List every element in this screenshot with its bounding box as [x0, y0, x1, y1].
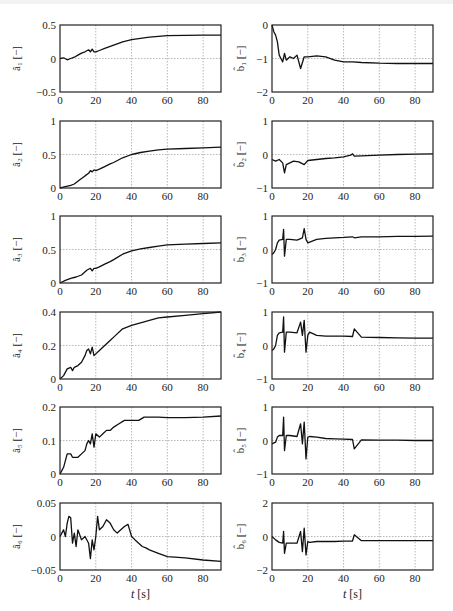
y-tick-label: 0.2: [42, 401, 56, 413]
x-tick-label: 40: [126, 94, 138, 106]
x-tick-label: 20: [90, 285, 102, 297]
y-axis-label: â₄ [−]: [10, 333, 22, 358]
y-tick-label: 0.5: [42, 149, 56, 161]
x-tick-label: 20: [90, 476, 102, 488]
y-axis-label: â₂ [−]: [10, 142, 22, 167]
x-tick-label: 40: [126, 381, 138, 393]
x-tick-label: 0: [57, 572, 63, 584]
x-tick-label: 80: [198, 94, 210, 106]
y-tick-label: 0.2: [42, 340, 56, 352]
x-axis-label: t [s]: [343, 587, 362, 601]
x-tick-label: 80: [198, 190, 210, 202]
y-tick-label: 1: [51, 115, 57, 127]
y-tick-label: −2: [256, 86, 268, 98]
x-tick-label: 40: [338, 381, 350, 393]
y-tick-label: 0.1: [42, 435, 56, 447]
y-axis-label: â₃ [−]: [10, 237, 22, 262]
y-tick-label: 0: [51, 182, 57, 194]
y-tick-label: 0: [263, 531, 269, 543]
data-line-b3: [272, 229, 433, 257]
y-tick-label: 0: [263, 19, 269, 31]
x-tick-label: 0: [57, 381, 63, 393]
x-tick-label: 20: [302, 381, 314, 393]
y-tick-label: 0: [51, 531, 57, 543]
x-tick-label: 80: [198, 381, 210, 393]
x-tick-label: 20: [90, 190, 102, 202]
subplot-b3: 020406080−101b̂₃ [−]: [233, 210, 433, 297]
data-line-b1: [272, 25, 433, 69]
data-line-b6: [272, 528, 433, 555]
x-tick-label: 60: [374, 572, 386, 584]
y-tick-label: 0: [51, 53, 57, 65]
x-tick-label: 60: [162, 285, 174, 297]
data-line-a1: [60, 35, 221, 60]
x-tick-label: 60: [162, 94, 174, 106]
y-tick-label: 1: [263, 210, 269, 222]
subplot-a3: 02040608000.51â₃ [−]: [10, 210, 221, 297]
y-tick-label: 0.5: [42, 19, 56, 31]
x-tick-label: 20: [90, 572, 102, 584]
x-tick-label: 80: [198, 572, 210, 584]
x-tick-label: 40: [126, 285, 138, 297]
y-tick-label: −0.05: [31, 564, 57, 576]
y-tick-label: 1: [51, 210, 57, 222]
x-tick-label: 60: [374, 476, 386, 488]
y-tick-label: −1: [256, 373, 268, 385]
x-tick-label: 80: [410, 572, 422, 584]
x-tick-label: 80: [410, 381, 422, 393]
x-tick-label: 80: [410, 285, 422, 297]
y-tick-label: 0: [263, 340, 269, 352]
data-line-b4: [272, 317, 433, 352]
subplot-a1: 020406080−0.500.5â₁ [−]: [10, 19, 221, 106]
data-line-b5: [272, 417, 433, 459]
y-tick-label: 1: [263, 115, 269, 127]
data-line-a2: [60, 147, 221, 188]
x-tick-label: 80: [198, 285, 210, 297]
figure: 020406080−0.500.5â₁ [−]020406080−2−10b̂₁…: [0, 0, 453, 611]
x-tick-label: 0: [269, 381, 275, 393]
x-tick-label: 60: [374, 190, 386, 202]
data-line-b2: [272, 154, 433, 173]
x-tick-label: 0: [57, 285, 63, 297]
y-tick-label: −2: [256, 564, 268, 576]
subplot-b4: 020406080−101b̂₄ [−]: [233, 306, 433, 393]
y-tick-label: 0.05: [37, 497, 57, 509]
x-tick-label: 0: [269, 94, 275, 106]
y-axis-label: â₆ [−]: [10, 524, 22, 549]
x-tick-label: 60: [162, 476, 174, 488]
x-tick-label: 0: [269, 190, 275, 202]
x-tick-label: 60: [162, 381, 174, 393]
x-tick-label: 60: [374, 94, 386, 106]
x-tick-label: 20: [90, 381, 102, 393]
x-tick-label: 0: [57, 94, 63, 106]
y-tick-label: −1: [256, 182, 268, 194]
subplot-a6: 020406080−0.0500.05â₆ [−]t [s]: [10, 497, 221, 601]
y-axis-label: b̂₃ [−]: [233, 237, 246, 263]
subplot-a5: 02040608000.10.2â₅ [−]: [10, 401, 221, 488]
y-tick-label: 0: [263, 435, 269, 447]
x-tick-label: 80: [410, 190, 422, 202]
y-tick-label: 0: [51, 468, 57, 480]
x-tick-label: 20: [302, 476, 314, 488]
y-tick-label: 0.4: [42, 306, 56, 318]
subplot-b2: 020406080−101b̂₂ [−]: [233, 115, 433, 202]
x-tick-label: 20: [90, 94, 102, 106]
x-tick-label: 60: [374, 285, 386, 297]
y-tick-label: 0.5: [42, 244, 56, 256]
x-tick-label: 40: [126, 476, 138, 488]
y-tick-label: 0: [51, 373, 57, 385]
x-tick-label: 40: [126, 572, 138, 584]
data-line-a5: [60, 416, 221, 474]
subplot-b5: 020406080−101b̂₅ [−]: [233, 401, 433, 488]
x-tick-label: 0: [57, 190, 63, 202]
x-tick-label: 40: [338, 572, 350, 584]
y-tick-label: 1: [263, 306, 269, 318]
y-tick-label: −0.5: [36, 86, 56, 98]
y-tick-label: 0: [51, 277, 57, 289]
subplot-b6: 020406080−202b̂₆ [−]t [s]: [233, 497, 433, 601]
y-axis-label: b̂₁ [−]: [233, 46, 246, 72]
y-tick-label: −1: [256, 468, 268, 480]
y-axis-label: â₁ [−]: [10, 46, 22, 71]
subplot-b1: 020406080−2−10b̂₁ [−]: [233, 19, 433, 106]
x-axis-label: t [s]: [131, 587, 150, 601]
